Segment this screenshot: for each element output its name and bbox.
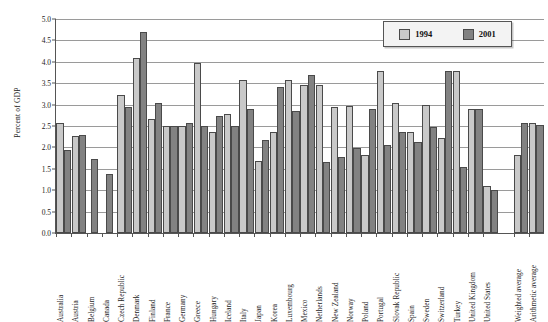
bar-1994 bbox=[483, 186, 490, 233]
bar-group bbox=[376, 19, 391, 233]
bar-1994 bbox=[56, 123, 63, 233]
bar-1994 bbox=[316, 85, 323, 233]
bar-1994 bbox=[133, 58, 140, 233]
bar-group bbox=[209, 19, 224, 233]
x-axis-label: France bbox=[164, 302, 172, 322]
bar-1994 bbox=[346, 106, 353, 233]
legend-swatch-1994 bbox=[399, 29, 410, 40]
x-axis-labels: AustraliaAustriaBelgiumCanadaCzech Repub… bbox=[55, 237, 543, 322]
x-axis-label: Hungary bbox=[210, 296, 218, 322]
bar-group bbox=[193, 19, 208, 233]
bar-2001 bbox=[369, 109, 376, 233]
bar-group bbox=[437, 19, 452, 233]
bar-group bbox=[361, 19, 376, 233]
bar-1994 bbox=[194, 63, 201, 233]
legend-swatch-2001 bbox=[463, 29, 474, 40]
bar-1994 bbox=[422, 105, 429, 233]
bar-group bbox=[529, 19, 544, 233]
bar-1994 bbox=[468, 109, 475, 233]
bar-1994 bbox=[72, 136, 79, 233]
plot-area: 5.04.54.03.53.02.52.01.51.00.50.0 bbox=[55, 19, 544, 234]
x-axis-label: Weighted average bbox=[515, 269, 523, 322]
bar-2001 bbox=[445, 71, 452, 233]
bar-2001 bbox=[125, 107, 132, 233]
bar-2001 bbox=[414, 142, 421, 233]
bar-group bbox=[331, 19, 346, 233]
y-tick-label: 0.5 bbox=[42, 207, 56, 216]
x-axis-label: Turkey bbox=[454, 301, 462, 322]
bar-2001 bbox=[491, 190, 498, 233]
y-tick-label: 2.0 bbox=[42, 143, 56, 152]
x-axis-label: Spain bbox=[408, 305, 416, 322]
bar-group bbox=[71, 19, 86, 233]
x-axis-label: New Zealand bbox=[332, 282, 340, 322]
bar-group bbox=[300, 19, 315, 233]
bar-group bbox=[224, 19, 239, 233]
bar-group bbox=[407, 19, 422, 233]
bar-group bbox=[163, 19, 178, 233]
bar-1994 bbox=[178, 126, 185, 233]
bar-2001 bbox=[186, 123, 193, 233]
bar-1994 bbox=[255, 161, 262, 233]
bar-2001 bbox=[91, 159, 98, 233]
legend-item-1994: 1994 bbox=[399, 29, 432, 40]
x-axis-label: Iceland bbox=[225, 300, 233, 322]
x-axis-label: Canada bbox=[103, 300, 111, 322]
bar-2001 bbox=[155, 103, 162, 233]
bar-1994 bbox=[377, 71, 384, 233]
bar-2001 bbox=[338, 157, 345, 233]
x-axis-label: Mexico bbox=[301, 299, 309, 322]
bar-1994 bbox=[239, 80, 246, 233]
x-axis-label: Denmark bbox=[133, 295, 141, 322]
y-axis-title: Percent of GDP bbox=[13, 53, 22, 173]
x-axis-label: Portugal bbox=[377, 297, 385, 322]
x-axis-label: Italy bbox=[240, 308, 248, 322]
bar-2001 bbox=[262, 140, 269, 233]
x-axis-label: Arithmetic average bbox=[530, 265, 538, 322]
bar-2001 bbox=[308, 75, 315, 233]
bar-1994 bbox=[285, 80, 292, 233]
x-axis-label: Japan bbox=[255, 305, 263, 322]
legend-item-2001: 2001 bbox=[463, 29, 496, 40]
x-axis-label: Switzerland bbox=[438, 287, 446, 322]
y-tick-label: 1.5 bbox=[42, 164, 56, 173]
x-axis-label: Netherlands bbox=[316, 286, 324, 322]
bar-2001 bbox=[475, 109, 482, 233]
bar-group bbox=[483, 19, 498, 233]
y-tick-label: 0.0 bbox=[42, 229, 56, 238]
y-tick-label: 2.5 bbox=[42, 122, 56, 131]
bar-1994 bbox=[514, 155, 521, 233]
bar-2001 bbox=[460, 167, 467, 233]
x-axis-label: Poland bbox=[362, 301, 370, 322]
bar-group bbox=[270, 19, 285, 233]
bar-2001 bbox=[231, 126, 238, 233]
bar-1994 bbox=[331, 107, 338, 233]
bar-2001 bbox=[247, 109, 254, 233]
bar-group bbox=[285, 19, 300, 233]
bar-1994 bbox=[270, 132, 277, 233]
bar-2001 bbox=[277, 87, 284, 233]
bar-2001 bbox=[170, 126, 177, 233]
x-axis-label: Slovak Republic bbox=[393, 273, 401, 322]
y-tick-label: 3.5 bbox=[42, 79, 56, 88]
bar-group bbox=[392, 19, 407, 233]
bar-group-spacer bbox=[498, 19, 513, 233]
bar-group bbox=[102, 19, 117, 233]
bar-2001 bbox=[323, 162, 330, 233]
bar-2001 bbox=[201, 126, 208, 233]
x-axis-label: United States bbox=[484, 282, 492, 322]
x-axis-label: Sweden bbox=[423, 299, 431, 322]
x-axis-label: Austria bbox=[72, 300, 80, 322]
y-tick-label: 1.0 bbox=[42, 186, 56, 195]
bar-1994 bbox=[361, 155, 368, 233]
bar-group bbox=[148, 19, 163, 233]
x-axis-label: Australia bbox=[57, 295, 65, 322]
bar-group bbox=[178, 19, 193, 233]
x-axis-label: Korea bbox=[271, 304, 279, 322]
chart-legend: 1994 2001 bbox=[383, 21, 512, 47]
bar-group bbox=[87, 19, 102, 233]
x-axis-label: Luxembourg bbox=[286, 284, 294, 322]
bars-container bbox=[56, 19, 544, 233]
bar-group bbox=[56, 19, 71, 233]
x-axis-label: Finland bbox=[149, 299, 157, 322]
